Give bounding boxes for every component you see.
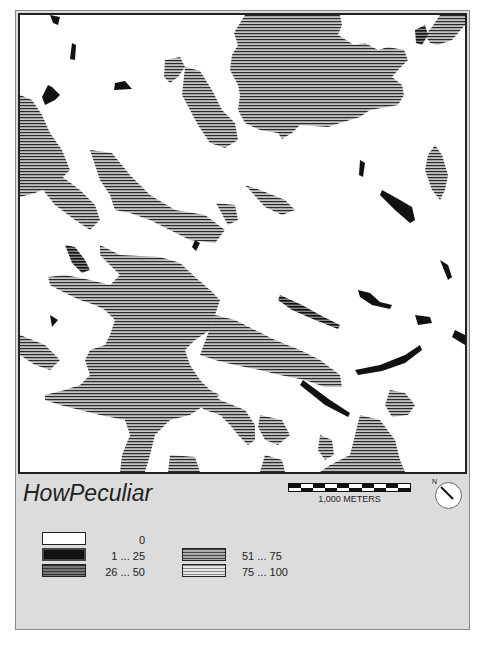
region-hatched bbox=[320, 415, 405, 472]
map-title: HowPeculiar bbox=[23, 480, 152, 507]
region-hatched bbox=[168, 455, 200, 472]
north-arrow-icon bbox=[435, 482, 462, 509]
region-hatched bbox=[245, 185, 295, 215]
region-black bbox=[192, 240, 200, 251]
scale-bar bbox=[288, 483, 411, 492]
region-black bbox=[114, 81, 132, 90]
legend-label-0: 0 bbox=[93, 534, 145, 546]
region-hatched bbox=[230, 15, 408, 139]
scale-bar-label: 1,000 METERS bbox=[288, 494, 411, 504]
map-raster bbox=[20, 15, 465, 472]
legend-swatch-4 bbox=[182, 564, 226, 577]
legend-swatch-1 bbox=[42, 548, 86, 561]
region-hatched bbox=[90, 150, 225, 243]
region-black bbox=[355, 345, 422, 375]
region-hatched bbox=[258, 415, 290, 445]
region-black bbox=[359, 160, 365, 177]
region-hatched bbox=[260, 455, 285, 472]
legend-label-4: 75 ... 100 bbox=[242, 566, 312, 578]
legend-swatch-0 bbox=[42, 532, 86, 545]
region-black bbox=[70, 43, 76, 60]
region-hatched bbox=[182, 67, 238, 148]
region-black bbox=[415, 315, 432, 325]
region-dark bbox=[415, 25, 428, 45]
region-hatched bbox=[425, 15, 465, 45]
region-black bbox=[42, 85, 60, 105]
map-canvas[interactable] bbox=[18, 13, 467, 474]
region-black bbox=[380, 190, 415, 223]
region-black bbox=[50, 315, 58, 327]
region-hatched bbox=[425, 145, 448, 200]
region-dark bbox=[65, 245, 90, 273]
region-hatched bbox=[216, 203, 238, 225]
legend-label-2: 26 ... 50 bbox=[93, 566, 145, 578]
region-black bbox=[440, 260, 452, 280]
legend-label-3: 51 ... 75 bbox=[242, 550, 294, 562]
region-hatched bbox=[35, 175, 100, 230]
region-black bbox=[452, 330, 465, 345]
region-hatched bbox=[45, 245, 220, 472]
region-hatched bbox=[318, 435, 334, 460]
region-hatched bbox=[164, 57, 185, 83]
region-black bbox=[50, 15, 60, 25]
region-hatched bbox=[385, 390, 415, 417]
region-black bbox=[358, 290, 392, 309]
region-hatched bbox=[200, 315, 342, 387]
legend-label-1: 1 ... 25 bbox=[93, 550, 145, 562]
legend-swatch-3 bbox=[182, 548, 226, 561]
region-dark bbox=[278, 295, 340, 329]
region-hatched bbox=[20, 335, 60, 370]
legend-swatch-2 bbox=[42, 564, 86, 577]
